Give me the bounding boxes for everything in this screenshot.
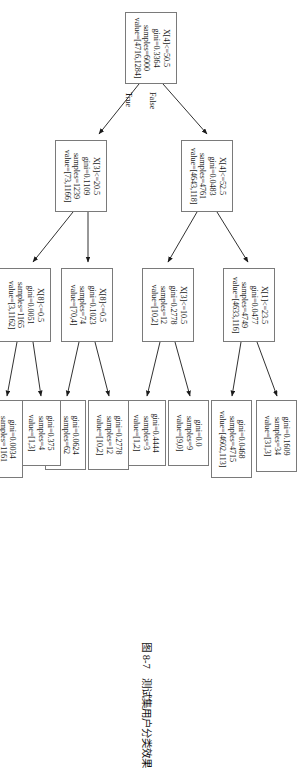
- tree-leaf-3[interactable]: gini=0.0 samples=9 value=[9,0]: [168, 400, 209, 466]
- node-gini: gini=0.1609: [282, 417, 292, 456]
- node-gini: gini=0.0051: [26, 286, 36, 325]
- tree-node-x1-23[interactable]: X[1]<=23.5 gini=0.0477 samples=4749 valu…: [223, 268, 275, 342]
- node-value: value=[70,4]: [68, 285, 78, 326]
- tree-leaf-1[interactable]: gini=0.1609 samples=34 value=[31,3]: [256, 400, 297, 472]
- node-samples: samples=1165: [16, 282, 26, 328]
- tree-node-x3-20[interactable]: X[3]<=20.5 gini=0.1109 samples=1239 valu…: [55, 140, 107, 212]
- node-value: value=[10,2]: [95, 415, 105, 456]
- edge-n1-right: [33, 212, 73, 262]
- node-gini: gini=0.2778: [114, 416, 124, 455]
- node-samples: samples=62: [61, 416, 71, 454]
- node-value: value=[4602,113]: [218, 411, 228, 468]
- node-value: value=[9,0]: [175, 415, 185, 452]
- node-gini: gini=0.1023: [88, 286, 98, 325]
- node-samples: samples=6000: [142, 25, 152, 71]
- node-samples: samples=34: [272, 417, 282, 455]
- edge-n4-left: [33, 342, 41, 396]
- tree-node-x4-52[interactable]: X[4]<=52.5 gini=0.0483 samples=4761 valu…: [181, 140, 233, 212]
- node-samples: samples=1161: [0, 416, 8, 462]
- node-gini: gini=0.4444: [151, 414, 161, 453]
- node-gini: gini=0.0483: [208, 157, 218, 196]
- node-value: value=[4643,118]: [188, 148, 198, 205]
- node-samples: samples=74: [78, 286, 88, 324]
- node-condition: X[1]<=23.5: [259, 286, 269, 324]
- node-gini: gini=0.0624: [71, 416, 81, 455]
- tree-node-root[interactable]: X[4]<=50.5 gini=0.3364 samples=6000 valu…: [125, 12, 177, 84]
- edge-n6-left: [257, 342, 277, 396]
- node-samples: samples=12: [159, 286, 169, 324]
- node-samples: samples=1239: [72, 153, 82, 199]
- edge-n5-left: [175, 342, 190, 396]
- tree-node-x3-10[interactable]: X[3]<=10.5 gini=0.2778 samples=12 value=…: [142, 268, 194, 342]
- node-gini: gini=0.2778: [169, 286, 179, 325]
- node-gini: gini=0.3364: [152, 29, 162, 68]
- edge-n4-right: [7, 342, 17, 396]
- node-samples: samples=12: [104, 416, 114, 454]
- node-gini: gini=0.1109: [82, 157, 92, 195]
- node-condition: X[8]<=0.5: [35, 288, 45, 322]
- node-samples: samples=4761: [198, 153, 208, 199]
- edge-root-false: [163, 84, 207, 134]
- node-value: value=[1,2]: [132, 415, 142, 452]
- node-gini: gini=0.0: [194, 420, 204, 447]
- caption-title: 测试集用户分类效果: [141, 678, 153, 768]
- edge-n5-right: [147, 342, 160, 396]
- node-samples: samples=3: [141, 416, 151, 450]
- edge-root-true: [99, 84, 139, 134]
- tree-leaf-8[interactable]: gini=0.0034 samples=1161 value=[2,1159]: [0, 400, 23, 478]
- node-value: value=[73,1166]: [62, 150, 72, 203]
- figure-caption: 图 8-7测试集用户分类效果: [0, 692, 295, 718]
- node-value: value=[3,1162]: [6, 281, 16, 330]
- node-value: value=[31,3]: [263, 416, 273, 457]
- node-value: value=[1,3]: [27, 415, 37, 452]
- node-gini: gini=0.375: [46, 416, 56, 451]
- tree-leaf-2[interactable]: gini=0.0468 samples=4715 value=[4602,113…: [211, 400, 252, 478]
- node-samples: samples=9: [184, 416, 194, 450]
- tree-leaf-4[interactable]: gini=0.4444 samples=3 value=[1,2]: [125, 400, 166, 466]
- edge-n3-right: [67, 342, 79, 396]
- tree-leaf-7[interactable]: gini=0.375 samples=4 value=[1,3]: [20, 400, 61, 466]
- node-condition: X[3]<=10.5: [178, 286, 188, 324]
- edge-n2-left: [217, 212, 248, 262]
- tree-node-x8-1165[interactable]: X[8]<=0.5 gini=0.0051 samples=1165 value…: [0, 268, 51, 342]
- node-condition: X[8]<=0.5: [97, 288, 107, 322]
- node-gini: gini=0.0477: [250, 286, 260, 325]
- edge-n3-left: [95, 342, 109, 396]
- node-gini: gini=0.0034: [8, 420, 18, 459]
- edge-n6-right: [232, 342, 241, 396]
- caption-number: 图 8-7: [141, 642, 152, 669]
- node-condition: X[3]<=20.5: [91, 157, 101, 195]
- tree-node-x8-74[interactable]: X[8]<=0.5 gini=0.1023 samples=74 value=[…: [61, 268, 113, 342]
- edge-n2-right: [168, 212, 197, 262]
- node-condition: X[4]<=52.5: [217, 157, 227, 195]
- node-value: value=[4633,116]: [230, 277, 240, 334]
- node-samples: samples=4: [36, 416, 46, 450]
- branch-label-false: False: [148, 92, 157, 109]
- node-gini: gini=0.0468: [237, 420, 247, 459]
- node-samples: samples=4715: [227, 416, 237, 462]
- decision-tree-canvas: False True X[4]<=50.5 gini=0.3364 sample…: [0, 0, 295, 690]
- node-samples: samples=4749: [240, 282, 250, 328]
- node-condition: X[4]<=50.5: [161, 29, 171, 67]
- branch-label-true: True: [124, 92, 133, 107]
- node-value: value=[4716,1284]: [132, 18, 142, 79]
- tree-leaf-5[interactable]: gini=0.2778 samples=12 value=[10,2]: [88, 400, 129, 470]
- node-value: value=[10,2]: [149, 285, 159, 326]
